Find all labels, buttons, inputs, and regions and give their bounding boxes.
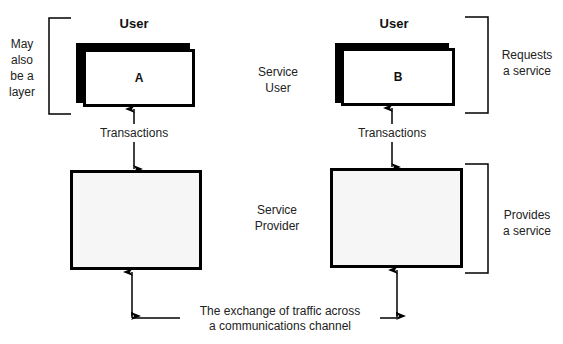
provides-service-label: Provides a service [494, 207, 560, 239]
service-provider-line: Service [232, 202, 322, 218]
user-b-title: User [364, 16, 424, 31]
service-user-line: User [238, 80, 318, 96]
channel-line: a communications channel [180, 319, 380, 334]
left-transactions-label: Transactions [94, 125, 174, 141]
user-b-box: B [341, 48, 455, 106]
requests-line: Requests [494, 47, 560, 63]
user-a-label: A [135, 71, 144, 85]
provides-line: a service [494, 223, 560, 239]
layer-note-line: be a [0, 68, 44, 84]
provides-bracket [465, 164, 488, 273]
channel-label: The exchange of traffic across a communi… [180, 304, 380, 334]
provider-a-box [70, 170, 202, 270]
service-user-label: Service User [238, 64, 318, 96]
requests-service-label: Requests a service [494, 47, 560, 79]
user-a-title: User [104, 16, 164, 31]
service-provider-label: Service Provider [232, 202, 322, 234]
provider-b-box [330, 168, 463, 268]
layer-note-line: May [0, 36, 44, 52]
user-a-box: A [83, 49, 195, 107]
layer-note-line: also [0, 52, 44, 68]
requests-bracket [465, 17, 488, 113]
requests-line: a service [494, 63, 560, 79]
layer-note-line: layer [0, 84, 44, 100]
user-b-label: B [394, 70, 403, 84]
layer-note: May also be a layer [0, 36, 44, 100]
left-bracket [49, 18, 71, 114]
right-transactions-label: Transactions [352, 125, 432, 141]
channel-line: The exchange of traffic across [180, 304, 380, 319]
provides-line: Provides [494, 207, 560, 223]
service-user-line: Service [238, 64, 318, 80]
service-provider-line: Provider [232, 218, 322, 234]
